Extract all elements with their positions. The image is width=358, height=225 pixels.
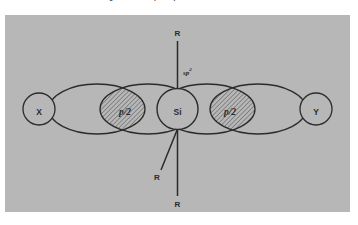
substituent-label-r-top: R bbox=[175, 29, 181, 38]
orbital-label-p-right: p/2 bbox=[223, 107, 236, 117]
substituent-label-r-bottom: R bbox=[175, 200, 181, 209]
hybrid-orbital-label: sp2 bbox=[182, 67, 192, 76]
caption-subscript: N bbox=[38, 0, 42, 1]
orbital-diagram-svg: X Si Y p/2 p/2 sp2 R R R bbox=[5, 15, 350, 212]
atom-label-x: X bbox=[36, 107, 42, 117]
orbital-label-p-left: p/2 bbox=[118, 107, 131, 117]
diagram-panel: X Si Y p/2 p/2 sp2 R R R bbox=[5, 15, 350, 212]
atom-label-si: Si bbox=[173, 107, 181, 117]
figure-caption: …e for an SN2 mechanism involving Si 3d … bbox=[2, 0, 356, 2]
bond-si-r-middle bbox=[161, 129, 178, 170]
hybrid-label-superscript: 2 bbox=[188, 67, 192, 72]
figure-root: …e for an SN2 mechanism involving Si 3d … bbox=[0, 0, 358, 225]
atom-label-y: Y bbox=[313, 107, 319, 117]
substituent-label-r-middle: R bbox=[154, 173, 160, 182]
